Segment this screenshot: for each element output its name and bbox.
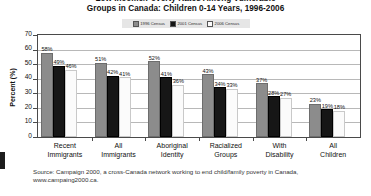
- bars-layer: 58%49%46%51%42%41%52%41%36%43%34%33%37%2…: [38, 35, 360, 137]
- y-axis-tick-mark: [33, 108, 37, 109]
- bar[interactable]: [160, 77, 172, 137]
- bar-group: 37%28%27%: [253, 35, 307, 137]
- chart-title-line-2: Groups in Canada: Children 0-14 Years, 1…: [0, 4, 371, 14]
- y-axis-tick-mark: [33, 122, 37, 123]
- bar[interactable]: [119, 77, 131, 137]
- legend-label: 1996 Census: [140, 21, 165, 26]
- bar-value-label: 51%: [91, 56, 111, 62]
- bar-value-label: 27%: [276, 91, 296, 97]
- bar[interactable]: [280, 98, 292, 137]
- x-axis-ticks: [38, 137, 360, 141]
- y-axis-tick-mark: [33, 35, 37, 36]
- x-axis-tick-mark: [306, 137, 307, 141]
- y-axis-tick-mark: [33, 50, 37, 51]
- x-axis-category-label: AllChildren: [302, 142, 364, 159]
- bar[interactable]: [172, 85, 184, 137]
- bar-value-label: 36%: [168, 78, 188, 84]
- x-axis-category-label-line: All: [302, 142, 364, 151]
- bar-value-label: 41%: [156, 71, 176, 77]
- y-axis-tick-label: 40: [10, 74, 32, 81]
- bar[interactable]: [53, 66, 65, 137]
- y-axis-tick-label: 70: [10, 31, 32, 38]
- legend-label: 2001 Census: [177, 21, 202, 26]
- legend-label: 2006 Census: [215, 21, 240, 26]
- scan-edge-artifact: [0, 152, 5, 169]
- bar[interactable]: [226, 89, 238, 137]
- y-axis-tick-label: 60: [10, 45, 32, 52]
- y-axis-tick-label: 30: [10, 89, 32, 96]
- bar[interactable]: [107, 76, 119, 137]
- bar-value-label: 52%: [144, 55, 164, 61]
- bar[interactable]: [65, 70, 77, 137]
- x-axis-labels: RecentImmigrantsAllImmigrantsAboriginalI…: [38, 142, 360, 164]
- chart-legend: 1996 Census2001 Census2006 Census: [122, 19, 250, 28]
- x-axis-category-label-line: Children: [302, 151, 364, 160]
- bar-value-label: 18%: [329, 104, 349, 110]
- bar-value-label: 46%: [61, 63, 81, 69]
- bar[interactable]: [268, 96, 280, 137]
- bar-value-label: 33%: [222, 82, 242, 88]
- x-axis-tick-mark: [145, 137, 146, 141]
- x-axis-tick-mark: [253, 137, 254, 141]
- legend-swatch-icon: [133, 21, 139, 27]
- y-axis-tick-mark: [33, 137, 37, 138]
- bar-value-label: 41%: [115, 71, 135, 77]
- source-line-2: www.campaing2000.ca.: [33, 176, 363, 184]
- bar-group: 51%42%41%: [92, 35, 146, 137]
- legend-item-2: 2006 Census: [207, 21, 239, 27]
- source-line-1: Source: Campaign 2000, a cross-Canada ne…: [33, 168, 363, 176]
- y-axis-tick-label: 50: [10, 60, 32, 67]
- bar-value-label: 58%: [37, 46, 57, 52]
- x-axis-tick-mark: [199, 137, 200, 141]
- y-axis-tick-mark: [33, 64, 37, 65]
- chart-title: Low Income/Poverty Rates Among Vulnerabl…: [0, 0, 371, 13]
- source-note: Source: Campaign 2000, a cross-Canada ne…: [33, 168, 363, 184]
- bar[interactable]: [333, 111, 345, 137]
- bar[interactable]: [321, 109, 333, 137]
- bar-value-label: 43%: [198, 68, 218, 74]
- bar-value-label: 37%: [252, 77, 272, 83]
- y-axis-tick-label: 10: [10, 118, 32, 125]
- bar-group: 58%49%46%: [38, 35, 92, 137]
- legend-swatch-icon: [170, 21, 176, 27]
- y-axis-tick-mark: [33, 79, 37, 80]
- chart-screenshot: Low Income/Poverty Rates Among Vulnerabl…: [0, 0, 371, 196]
- legend-swatch-icon: [207, 21, 213, 27]
- legend-item-1: 2001 Census: [170, 21, 202, 27]
- y-axis-tick-label: 20: [10, 104, 32, 111]
- x-axis-tick-mark: [92, 137, 93, 141]
- bar[interactable]: [41, 53, 53, 138]
- bar-group: 43%34%33%: [199, 35, 253, 137]
- y-axis-tick-label: 0: [10, 133, 32, 140]
- bar-group: 52%41%36%: [145, 35, 199, 137]
- legend-item-0: 1996 Census: [133, 21, 165, 27]
- bar[interactable]: [214, 87, 226, 137]
- y-axis-tick-mark: [33, 93, 37, 94]
- bar-group: 23%19%18%: [306, 35, 360, 137]
